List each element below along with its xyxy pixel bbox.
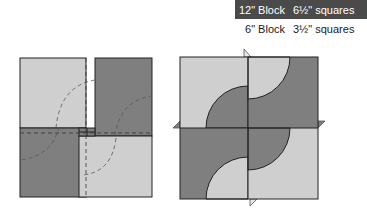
flap-left [173,121,180,128]
flap-bottom [250,199,257,206]
flap-top [244,49,251,57]
flap-right [318,121,325,128]
right-diagram-quarter-circle-block [0,0,367,214]
